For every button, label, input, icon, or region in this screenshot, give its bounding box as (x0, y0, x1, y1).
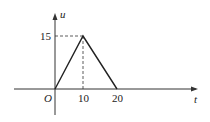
origin-label: O (44, 93, 52, 104)
data-line (55, 36, 117, 89)
y-tick-15: 15 (40, 31, 51, 42)
x-axis-arrow-icon (191, 87, 198, 92)
x-axis-label: t (194, 94, 197, 105)
chart-svg (0, 0, 210, 122)
y-axis-label: u (60, 9, 66, 20)
y-axis-arrow-icon (53, 13, 58, 20)
x-tick-20: 20 (112, 93, 123, 104)
x-tick-10: 10 (78, 93, 89, 104)
